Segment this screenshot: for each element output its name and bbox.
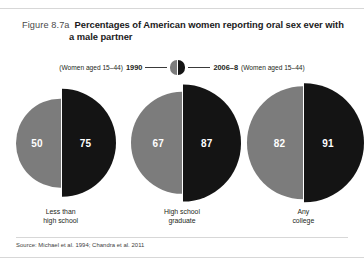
legend-half-black: [178, 60, 185, 75]
legend-left-aged-label: (Women aged 15–44): [59, 64, 123, 71]
legend-right-series-label: 2006–8: [213, 63, 238, 72]
legend-rule-right: [188, 67, 210, 68]
page-title: Percentages of American women reporting …: [69, 19, 346, 43]
value-label-2006-8-2: 87: [201, 138, 213, 149]
split-circle-3: 8291: [247, 79, 359, 207]
figure-heading: Figure 8.7a Percentages of American wome…: [22, 19, 346, 43]
legend-rule-left: [145, 67, 167, 68]
value-label-2006-8-1: 75: [80, 138, 92, 149]
split-circle-1: 5075: [5, 79, 117, 207]
category-label-1: Less thanhigh school: [5, 207, 117, 226]
category-label-2: High schoolgraduate: [126, 207, 238, 226]
value-label-1990-2: 67: [152, 138, 164, 149]
legend-half-gray: [170, 60, 177, 75]
category-label-3: Anycollege: [247, 207, 359, 226]
figure-frame: Figure 8.7a Percentages of American wome…: [0, 8, 364, 258]
source-divider: [16, 237, 348, 238]
legend-right-aged-label: (Women aged 15–44): [241, 64, 305, 71]
value-label-2006-8-3: 91: [322, 138, 334, 149]
value-label-1990-1: 50: [31, 138, 43, 149]
value-label-1990-3: 82: [274, 138, 286, 149]
legend-split-circle-icon: [170, 60, 185, 75]
figure-number: Figure 8.7a: [22, 19, 75, 31]
split-circle-2: 6787: [126, 79, 238, 207]
source-note: Source: Michael et al. 1994; Chandra et …: [16, 242, 144, 248]
split-circle-chart: 507567878291: [0, 79, 364, 207]
category-label-row: Less thanhigh schoolHigh schoolgraduateA…: [0, 207, 364, 226]
chart-legend: (Women aged 15–44) 1990 2006–8 (Women ag…: [0, 59, 364, 75]
legend-left-series-label: 1990: [126, 63, 142, 72]
